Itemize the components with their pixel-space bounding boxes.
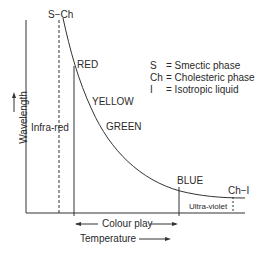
legend-row: S = Smectic phase	[150, 60, 255, 72]
wavelength-arrow-icon	[12, 92, 16, 98]
legend: S = Smectic phase Ch = Cholesteric phase…	[150, 60, 255, 96]
legend-row: Ch = Cholesteric phase	[150, 72, 255, 84]
infra-red-label: Infra-red	[31, 123, 69, 133]
arrow-right-icon	[172, 222, 178, 226]
yellow-label: YELLOW	[92, 97, 134, 107]
x-axis-label: Temperature	[80, 234, 136, 244]
blue-label: BLUE	[177, 176, 203, 186]
s-ch-label: S−Ch	[48, 10, 73, 20]
ch-i-label: Ch−I	[228, 186, 249, 196]
ultra-violet-label: Ultra-violet	[189, 203, 227, 211]
red-label: RED	[77, 60, 98, 70]
temperature-arrow-icon	[165, 237, 171, 241]
colour-play-label: Colour play	[102, 219, 153, 229]
legend-row: I = Isotropic liquid	[150, 84, 255, 96]
arrow-left-icon	[75, 222, 81, 226]
y-axis-label: Wavelength	[18, 83, 29, 153]
wavelength-curve	[63, 18, 245, 198]
green-label: GREEN	[106, 122, 142, 132]
